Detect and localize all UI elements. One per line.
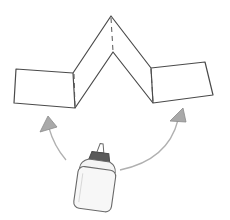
center-fold-line <box>111 18 113 51</box>
right-panel <box>151 62 213 103</box>
illustration-canvas <box>0 0 230 220</box>
inner-zigzag-edge <box>75 52 153 108</box>
right-arrow-shaft <box>120 120 178 170</box>
left-arrowhead-icon <box>40 116 57 132</box>
bottle-body <box>73 166 116 213</box>
right-arrow <box>120 108 186 170</box>
right-arrowhead-icon <box>170 108 186 122</box>
glue-bottle-icon <box>73 141 120 213</box>
bottle-nozzle <box>97 143 105 153</box>
left-arrow <box>40 116 66 160</box>
arrows <box>40 108 186 170</box>
glue-folded-paper-illustration <box>0 0 230 220</box>
left-panel <box>14 69 75 108</box>
folded-paper <box>14 16 213 108</box>
fold-lines <box>74 18 153 107</box>
outer-zigzag-edge <box>73 16 151 73</box>
left-arrow-shaft <box>49 128 66 160</box>
